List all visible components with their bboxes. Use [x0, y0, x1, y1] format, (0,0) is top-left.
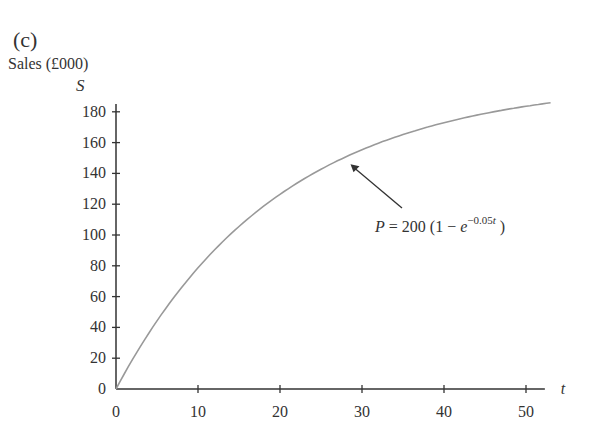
annotation-arrow	[354, 167, 402, 208]
y-tick-label: 180	[82, 103, 106, 120]
x-variable-label: t	[561, 380, 566, 397]
x-tick-label: 20	[272, 403, 288, 420]
y-tick-label: 40	[90, 318, 106, 335]
y-tick-label: 100	[82, 226, 106, 243]
y-tick-label: 60	[90, 288, 106, 305]
y-tick-label: 80	[90, 257, 106, 274]
sales-curve	[116, 103, 551, 389]
x-tick-label: 30	[354, 403, 370, 420]
x-tick-label: 40	[436, 403, 452, 420]
y-tick-label: 160	[82, 134, 106, 151]
x-tick-label: 50	[518, 403, 534, 420]
y-tick-label: 120	[82, 195, 106, 212]
x-tick-label: 10	[190, 403, 206, 420]
chart: 02040608010012014016018001020304050tP = …	[0, 0, 605, 441]
formula-annotation: P = 200 (1 − e−0.05t )	[374, 214, 505, 236]
y-tick-label: 140	[82, 164, 106, 181]
y-tick-label: 0	[98, 380, 106, 397]
x-tick-label: 0	[112, 403, 120, 420]
y-tick-label: 20	[90, 349, 106, 366]
